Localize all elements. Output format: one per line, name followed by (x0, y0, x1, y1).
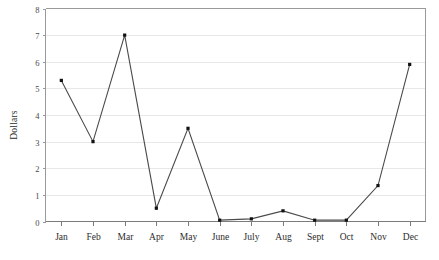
x-tick-label: Jan (55, 232, 68, 242)
y-tick-label: 3 (35, 138, 39, 148)
x-tick-label: Mar (118, 232, 135, 242)
y-tick-label: 8 (35, 5, 39, 15)
line-chart: 012345678 JanFebMarAprMayJuneJulyAugSept… (0, 0, 439, 260)
y-tick-label: 0 (35, 218, 39, 228)
y-tick-label: 2 (35, 164, 39, 174)
data-point-marker (218, 219, 221, 222)
x-tick-label: Aug (275, 232, 292, 242)
data-point-marker (250, 217, 253, 220)
y-tick-label: 7 (35, 31, 39, 41)
x-tick-label: Dec (403, 232, 418, 242)
data-point-marker (91, 140, 94, 143)
x-tick-label: Feb (86, 232, 101, 242)
x-tick-label: Nov (370, 232, 387, 242)
x-tick-label: Oct (340, 232, 354, 242)
data-point-marker (155, 207, 158, 210)
x-tick-label: May (180, 232, 198, 242)
data-point-marker (376, 184, 379, 187)
data-point-marker (345, 219, 348, 222)
x-tick-label: Apr (149, 232, 165, 242)
data-point-marker (186, 127, 189, 130)
chart-canvas: 012345678 JanFebMarAprMayJuneJulyAugSept… (0, 0, 439, 260)
y-tick-label: 6 (35, 58, 39, 68)
data-point-marker (408, 63, 411, 66)
y-axis-title: Dollars (9, 110, 19, 139)
data-point-marker (281, 209, 284, 212)
data-point-marker (123, 34, 126, 37)
data-point-marker (60, 79, 63, 82)
y-tick-label: 1 (35, 191, 39, 201)
y-tick-label: 5 (35, 84, 39, 94)
x-tick-label: June (212, 232, 229, 242)
x-tick-label: Sept (307, 232, 324, 242)
data-point-marker (313, 219, 316, 222)
x-tick-label: July (244, 232, 260, 242)
